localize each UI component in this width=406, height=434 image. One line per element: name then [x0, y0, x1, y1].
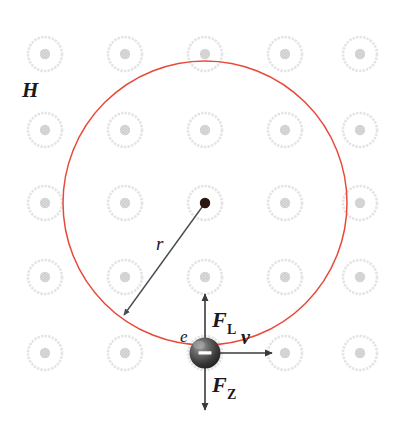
force-centrifugal-subscript: Z: [227, 387, 236, 402]
electron-label: e: [180, 327, 188, 346]
electron-charge-sign: [199, 351, 212, 354]
radius-label: r: [156, 233, 164, 254]
physics-diagram-figure: H r e v F L F Z: [0, 0, 406, 434]
diagram-canvas: H r e v F L F Z: [0, 0, 406, 434]
velocity-label: v: [241, 326, 251, 348]
force-lorentz-subscript: L: [227, 322, 236, 337]
figure-background: [0, 0, 406, 434]
force-centrifugal-symbol: F: [211, 372, 227, 397]
lattice-label: H: [21, 78, 39, 102]
orbit-center-dot: [200, 198, 210, 208]
force-lorentz-symbol: F: [211, 307, 227, 332]
electron-particle: [190, 338, 221, 369]
